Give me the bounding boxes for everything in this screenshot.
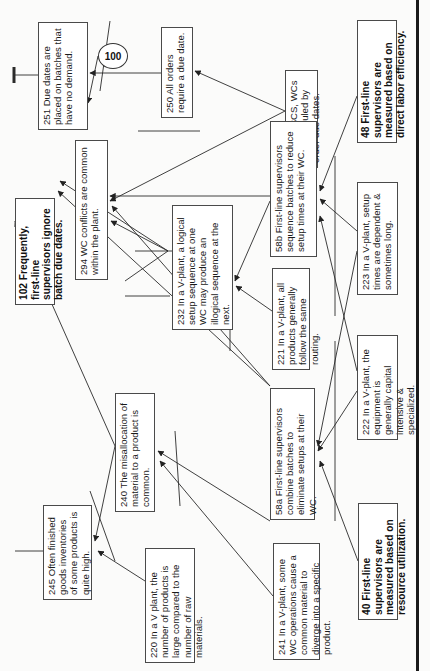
- node-294: 294 WC conflicts are common within the p…: [75, 140, 108, 280]
- node-220: 220 In a V plant, the number of products…: [145, 548, 195, 663]
- node-245: 245 Often finished goods inventories of …: [43, 505, 92, 600]
- node-102: 102 Frequently, first-line supervisors i…: [15, 198, 55, 305]
- node-232: 232 In a V-plant, a logical setup sequen…: [172, 205, 233, 330]
- node-240: 240 The misallocation of material to a p…: [115, 393, 155, 512]
- node-241: 241 In a V-plant, some WC operations cau…: [273, 543, 320, 660]
- node-221: 221 In a V-plant, all products generally…: [272, 268, 310, 370]
- node-223: 223 In a V-plant, setup times are depend…: [357, 182, 398, 295]
- node-40: 40 First-line supervisors are measured b…: [358, 503, 398, 620]
- node-58b: 58b First-line supervisors sequence batc…: [270, 121, 317, 257]
- node-48: 48 First-line supervisors are measured b…: [357, 20, 397, 143]
- node-251: 251 Due dates are placed on batches that…: [38, 22, 88, 130]
- node-222: 222 In a V-plant, the equipment is gener…: [357, 335, 398, 440]
- node-100: 100: [98, 43, 128, 69]
- page-edge-rule: [416, 0, 419, 671]
- node-58a: 58a First-line supervisors combine batch…: [270, 388, 315, 520]
- diagram-canvas: 100 251 Due dates are placed on batches …: [0, 0, 430, 671]
- node-250: 250 All orders require a due date.: [161, 27, 193, 118]
